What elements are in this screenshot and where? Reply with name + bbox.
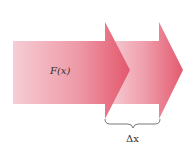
delta-x-label: Δx (126, 133, 139, 144)
diagram: F(x) Δx (0, 0, 196, 154)
arrow-f-of-x (13, 22, 130, 119)
brace (105, 119, 160, 128)
arrow-label: F(x) (49, 65, 70, 76)
